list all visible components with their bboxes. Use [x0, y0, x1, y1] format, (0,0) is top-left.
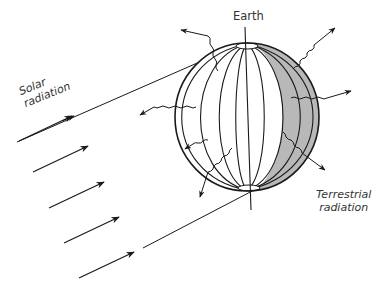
solar-arrow-1 — [33, 146, 88, 172]
solar-arrow-3 — [64, 217, 119, 243]
terrestrial-label-line2: radiation — [316, 201, 371, 214]
terrestrial-label-line1: Terrestrial — [316, 188, 371, 201]
earth-radiation-diagram: Earth Solar radiation Terrestrial radiat… — [0, 0, 375, 294]
terrestrial-radiation-label: Terrestrial radiation — [316, 188, 371, 214]
solar-arrow-2 — [49, 182, 104, 208]
earth-label: Earth — [233, 10, 264, 23]
solar-ray-lower-tangent — [143, 189, 256, 248]
wavy-arrow-upper-right — [293, 28, 335, 69]
solar-arrow-0 — [19, 116, 72, 141]
diagram-canvas — [0, 0, 375, 294]
solar-arrow-4 — [79, 252, 134, 278]
solar-arrows — [19, 116, 134, 278]
